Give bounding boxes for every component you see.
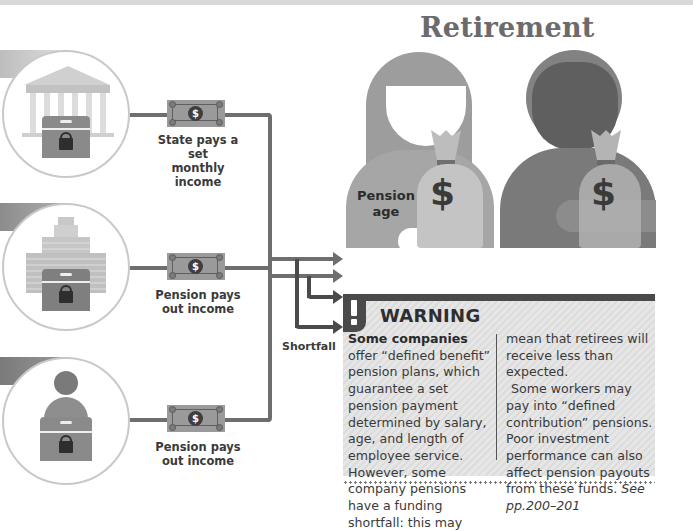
warning-title: WARNING — [380, 305, 481, 326]
warning-top-bar — [343, 294, 655, 301]
arrow-mid-icon — [333, 269, 343, 283]
warning-lead: Some companies — [348, 331, 468, 346]
caption-state: State pays a set monthly income — [148, 133, 248, 189]
dollar-coin-icon: $ — [188, 106, 203, 121]
personal-pension-circle — [2, 357, 130, 485]
locked-chest-icon — [42, 263, 90, 311]
money-note-company: $ — [167, 253, 225, 280]
shortfall-branch-b-vertical — [295, 259, 299, 328]
caption-personal: Pension pays out income — [148, 440, 248, 468]
exclamation-icon — [343, 294, 366, 332]
arrow-top-icon — [333, 252, 343, 266]
locked-chest-icon — [42, 110, 90, 158]
column-divider — [496, 334, 497, 460]
page-title: Retirement — [420, 12, 595, 43]
caption-company: Pension pays out income — [148, 288, 248, 316]
money-bag-woman-icon: $ — [417, 130, 489, 248]
warning-column-2: mean that retirees will receive less tha… — [506, 331, 656, 515]
warning-column-1: Some companies offer “defined benefit” p… — [348, 331, 492, 531]
shortfall-label: Shortfall — [282, 340, 336, 353]
top-strip — [0, 0, 693, 5]
warning-text-2b: Some workers may pay into “defined contr… — [506, 381, 652, 496]
dollar-coin-icon: $ — [188, 411, 203, 426]
warning-text-1: offer “defined benefit” pension plans, w… — [348, 348, 490, 530]
dotted-rule — [343, 481, 655, 484]
money-note-state: $ — [167, 100, 225, 127]
arrow-shortfall-icon — [333, 320, 343, 334]
locked-chest-icon — [40, 411, 92, 461]
company-pension-circle — [2, 203, 130, 331]
trunk-line — [268, 113, 272, 422]
shortfall-branch-a — [307, 295, 335, 299]
money-note-personal: $ — [167, 405, 225, 432]
branch-mid — [270, 274, 335, 278]
money-bag-man-icon: $ — [577, 130, 649, 248]
branch-top — [270, 257, 335, 261]
dollar-coin-icon: $ — [188, 259, 203, 274]
pension-age-label: Pension age — [357, 188, 415, 220]
arrow-warning-icon — [333, 290, 343, 304]
state-pension-circle — [2, 50, 130, 178]
shortfall-branch-b — [295, 325, 335, 329]
warning-text-2a: mean that retirees will receive less tha… — [506, 331, 648, 379]
